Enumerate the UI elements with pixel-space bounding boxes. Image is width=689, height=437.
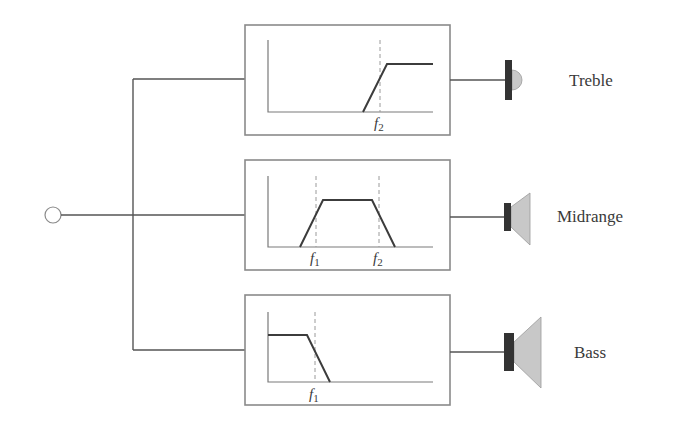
tweeter-icon <box>505 60 522 100</box>
channel-label-midrange: Midrange <box>557 207 623 226</box>
channel-bass: f1 Bass <box>245 295 606 405</box>
band-pass-filter-box <box>245 160 450 270</box>
input-wiring <box>45 79 245 350</box>
channel-label-bass: Bass <box>574 343 606 362</box>
midrange-speaker-icon <box>504 193 530 245</box>
channel-midrange: f1 f2 Midrange <box>245 160 623 270</box>
high-pass-filter-box <box>245 25 450 135</box>
low-pass-filter-box <box>245 295 450 405</box>
input-terminal-icon <box>45 207 61 223</box>
woofer-icon <box>504 317 541 388</box>
channel-label-treble: Treble <box>569 71 613 90</box>
crossover-diagram: f2 Treble f1 f2 Midrange f1 <box>0 0 689 437</box>
channel-treble: f2 Treble <box>245 25 613 135</box>
